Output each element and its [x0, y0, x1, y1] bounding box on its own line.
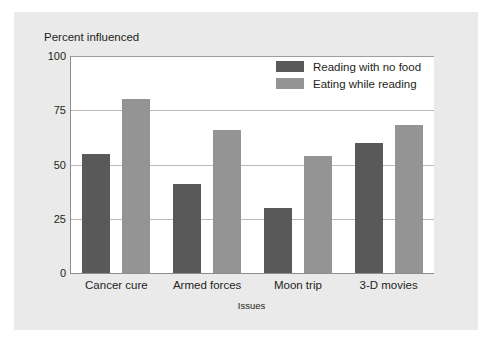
y-axis-tick-label: 50 [54, 159, 66, 171]
legend-swatch [276, 78, 304, 89]
chart-legend: Reading with no foodEating while reading [272, 54, 427, 96]
legend-swatch [276, 61, 304, 72]
x-axis-category-label: 3-D movies [360, 279, 418, 291]
legend-item: Eating while reading [276, 75, 421, 92]
bar [213, 130, 241, 273]
bar [82, 154, 110, 273]
x-axis-title: Issues [70, 300, 433, 311]
y-axis-tick-label: 100 [48, 50, 66, 62]
bar [264, 208, 292, 273]
chart-figure: Percent influenced 0255075100Cancer cure… [14, 12, 478, 330]
bar [173, 184, 201, 273]
x-axis-category-label: Moon trip [274, 279, 322, 291]
y-axis-tick-label: 25 [54, 213, 66, 225]
x-axis-category-label: Cancer cure [85, 279, 148, 291]
bar [304, 156, 332, 273]
y-axis-tick-label: 0 [60, 267, 66, 279]
bar [355, 143, 383, 273]
x-axis-category-label: Armed forces [173, 279, 241, 291]
bar [122, 99, 150, 273]
legend-label: Reading with no food [313, 61, 421, 73]
legend-label: Eating while reading [313, 78, 417, 90]
y-axis-title: Percent influenced [44, 31, 139, 43]
bar [395, 125, 423, 273]
legend-item: Reading with no food [276, 58, 421, 75]
y-axis-tick-label: 75 [54, 104, 66, 116]
